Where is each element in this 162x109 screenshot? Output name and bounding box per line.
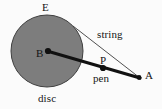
point-a-dot bbox=[137, 75, 142, 80]
label-disc: disc bbox=[38, 93, 56, 104]
label-P: P bbox=[100, 55, 106, 66]
label-B: B bbox=[36, 48, 43, 59]
figure-canvas bbox=[0, 0, 162, 109]
label-E: E bbox=[42, 2, 49, 13]
label-pen: pen bbox=[93, 73, 109, 84]
point-b-dot bbox=[45, 48, 51, 54]
label-string: string bbox=[97, 29, 123, 40]
label-A: A bbox=[145, 70, 153, 81]
geometry-figure: E B disc string P pen A bbox=[0, 0, 162, 109]
